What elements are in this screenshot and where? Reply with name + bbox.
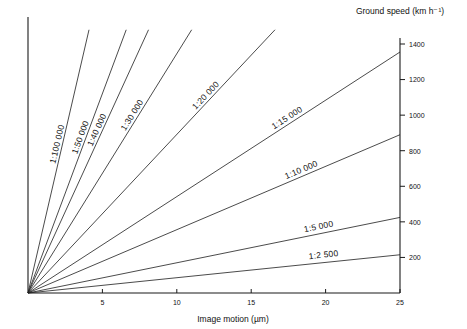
y-tick-label: 200 xyxy=(409,254,421,261)
x-tick-label: 10 xyxy=(173,299,181,306)
scale-label-text: 1:10 000 xyxy=(283,158,319,181)
x-tick-label: 15 xyxy=(247,299,255,306)
scale-line xyxy=(28,135,400,293)
x-tick-label: 25 xyxy=(396,299,404,306)
scale-label-text: 1:30 000 xyxy=(119,97,146,132)
y-tick-label: 1000 xyxy=(409,112,425,119)
chart-container: 510152025 200400600800100012001400 1:100… xyxy=(0,0,467,329)
x-axis-title: Image motion (µm) xyxy=(197,314,269,324)
scale-line xyxy=(28,255,400,293)
x-tick-label: 20 xyxy=(322,299,330,306)
y-axis-ticks: 200400600800100012001400 xyxy=(400,41,425,261)
x-tick-label: 5 xyxy=(100,299,104,306)
scale-label-text: 1:2 500 xyxy=(308,248,339,261)
ground-speed-vs-image-motion-chart: 510152025 200400600800100012001400 1:100… xyxy=(0,0,467,329)
y-tick-label: 1400 xyxy=(409,41,425,48)
scale-label: 1:20 000 xyxy=(190,79,221,111)
scale-line xyxy=(28,30,89,293)
scale-line xyxy=(28,30,126,293)
scale-label-text: 1:100 000 xyxy=(48,124,67,165)
scale-label-text: 1:20 000 xyxy=(190,79,221,111)
y-tick-label: 600 xyxy=(409,183,421,190)
scale-label: 1:30 000 xyxy=(119,97,146,132)
scale-line xyxy=(28,217,400,293)
scale-ray-labels: 1:100 0001:50 0001:40 0001:30 0001:20 00… xyxy=(48,79,339,261)
y-tick-label: 800 xyxy=(409,148,421,155)
scale-label: 1:10 000 xyxy=(283,158,319,181)
scale-label: 1:100 000 xyxy=(48,124,67,165)
y-axis-title: Ground speed (km h⁻¹) xyxy=(356,6,444,16)
scale-line xyxy=(28,30,275,293)
y-tick-label: 400 xyxy=(409,219,421,226)
scale-ray-lines xyxy=(28,30,400,293)
scale-label: 1:2 500 xyxy=(308,248,339,261)
chart-axes xyxy=(28,17,400,293)
x-axis-ticks: 510152025 xyxy=(100,289,404,306)
y-tick-label: 1200 xyxy=(409,76,425,83)
